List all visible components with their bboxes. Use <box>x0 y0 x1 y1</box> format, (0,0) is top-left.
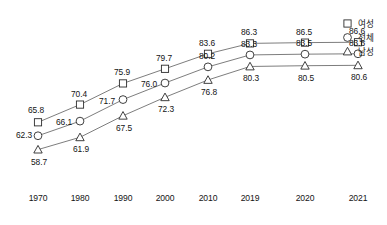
x-axis-tick-1970: 1970 <box>29 193 48 203</box>
data-label: 80.5 <box>298 73 314 83</box>
data-point-marker <box>76 133 84 141</box>
legend: 여성전체남성 <box>342 16 386 58</box>
data-point-marker <box>161 65 168 72</box>
data-label: 65.8 <box>28 105 44 115</box>
legend-label: 남성 <box>358 45 374 57</box>
x-axis-tick-2021: 2021 <box>349 193 368 203</box>
data-label: 62.3 <box>16 130 32 140</box>
data-label: 71.7 <box>99 96 115 106</box>
data-label: 70.4 <box>71 89 87 99</box>
data-label: 76.0 <box>141 79 157 89</box>
legend-item-여성: 여성 <box>342 16 386 30</box>
legend-item-전체: 전체 <box>342 30 386 44</box>
triangle-icon <box>342 46 353 57</box>
data-label: 86.3 <box>241 27 257 37</box>
data-label: 86.5 <box>296 27 312 37</box>
data-point-marker <box>204 76 212 84</box>
legend-item-남성: 남성 <box>342 44 386 58</box>
legend-label: 여성 <box>358 17 374 29</box>
data-label: 61.9 <box>73 144 89 154</box>
x-axis-tick-2020: 2020 <box>296 193 315 203</box>
data-label: 66.1 <box>56 117 72 127</box>
data-point-marker <box>119 96 127 104</box>
data-point-marker <box>204 63 212 71</box>
square-icon <box>342 18 353 29</box>
data-point-marker <box>161 93 169 101</box>
x-axis-tick-2019: 2019 <box>241 193 260 203</box>
data-label: 80.3 <box>243 73 259 83</box>
data-label: 80.6 <box>351 72 367 82</box>
data-label: 75.9 <box>114 67 130 77</box>
x-axis-tick-2010: 2010 <box>199 193 218 203</box>
data-point-marker <box>34 132 42 140</box>
data-point-marker <box>76 117 84 125</box>
data-label: 80.2 <box>199 51 215 61</box>
x-axis-tick-1990: 1990 <box>114 193 133 203</box>
data-label: 67.5 <box>116 123 132 133</box>
data-label: 83.3 <box>241 39 257 49</box>
legend-label: 전체 <box>358 31 374 43</box>
plot-area <box>0 0 387 225</box>
data-point-marker <box>119 112 127 120</box>
data-label: 72.3 <box>158 104 174 114</box>
circle-icon <box>342 32 353 43</box>
data-label: 79.7 <box>156 53 172 63</box>
data-point-marker <box>76 101 83 108</box>
data-point-marker <box>34 119 41 126</box>
x-axis-tick-2000: 2000 <box>156 193 175 203</box>
data-label: 83.5 <box>296 38 312 48</box>
data-point-marker <box>161 79 169 87</box>
data-point-marker <box>301 50 309 58</box>
data-label: 58.7 <box>31 157 47 167</box>
x-axis-tick-1980: 1980 <box>71 193 90 203</box>
data-label: 83.6 <box>199 38 215 48</box>
data-point-marker <box>246 51 254 59</box>
line-chart: 65.870.475.979.783.686.386.586.662.366.1… <box>0 0 387 225</box>
data-point-marker <box>119 80 126 87</box>
data-label: 76.8 <box>201 87 217 97</box>
